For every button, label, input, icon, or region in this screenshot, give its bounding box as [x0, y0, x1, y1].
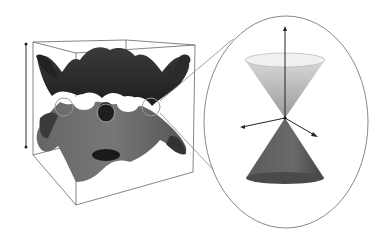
energy-scale-arrow [25, 43, 28, 149]
figure-canvas [0, 0, 384, 232]
dirac-point [284, 117, 287, 120]
